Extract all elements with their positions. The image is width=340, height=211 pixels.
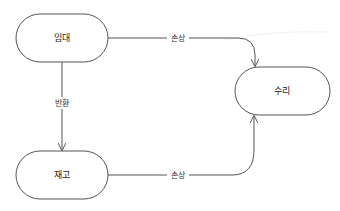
edge-label-damage-2: 손상 xyxy=(171,170,186,180)
edge-inventory-to-repair[interactable]: 손상 xyxy=(108,116,254,181)
faint-stroke xyxy=(225,32,330,40)
edge-label-damage-1: 손상 xyxy=(171,33,186,43)
node-rental[interactable]: 임대 xyxy=(16,14,108,62)
node-label-rental: 임대 xyxy=(54,32,70,43)
node-label-repair: 수리 xyxy=(274,86,290,96)
node-repair[interactable]: 수리 xyxy=(235,67,330,115)
edge-rental-to-repair[interactable]: 손상 xyxy=(108,32,255,66)
node-label-inventory: 재고 xyxy=(54,170,70,180)
diagram-canvas: 손상 반환 손상 임대 수리 재고 xyxy=(0,0,340,211)
edge-label-return: 반환 xyxy=(55,98,70,108)
edge-line xyxy=(108,116,254,175)
edge-rental-to-inventory[interactable]: 반환 xyxy=(51,62,73,150)
node-inventory[interactable]: 재고 xyxy=(16,151,108,199)
